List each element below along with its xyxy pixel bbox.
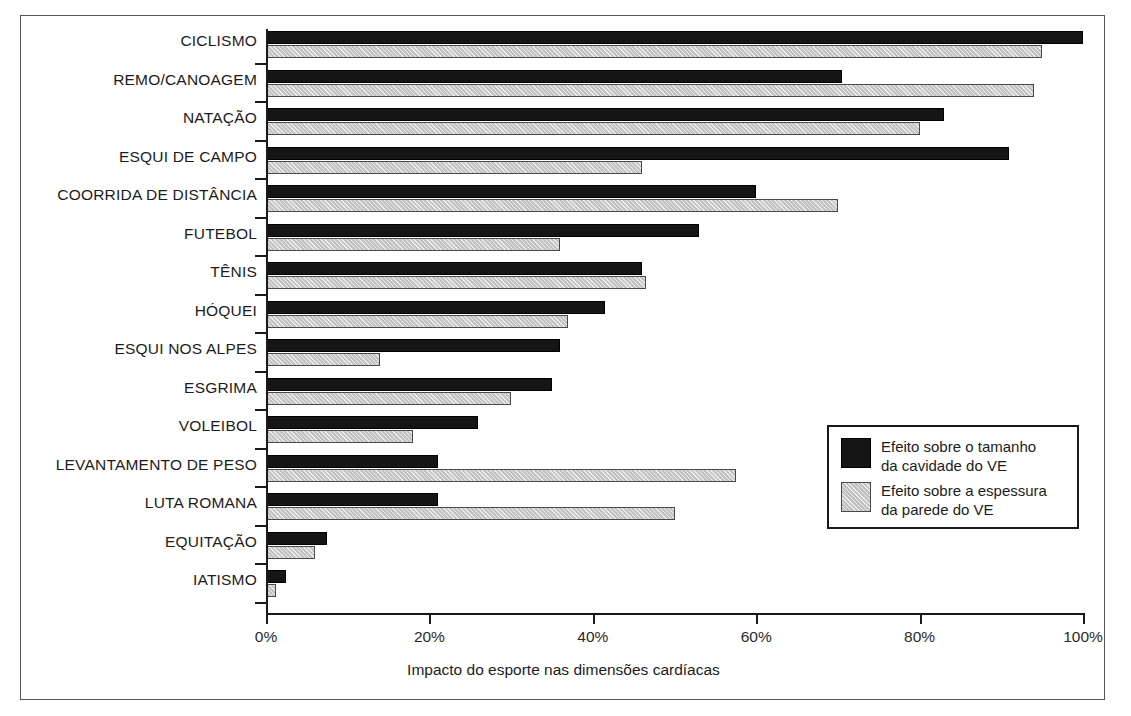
legend-label-wall: Efeito sobre a espessura da parede do VE	[881, 481, 1047, 519]
bar-group	[266, 568, 1083, 607]
bar-cavity	[266, 416, 478, 429]
bar-group	[266, 299, 1083, 338]
y-axis-tick	[255, 332, 266, 334]
x-axis-tick	[429, 613, 431, 624]
bar-cavity	[266, 455, 438, 468]
y-axis-tick	[255, 140, 266, 142]
bar-cavity	[266, 262, 642, 275]
bar-cavity	[266, 224, 699, 237]
bar-wall	[266, 546, 315, 559]
y-axis-tick	[255, 409, 266, 411]
x-axis-tick-label: 0%	[255, 628, 277, 646]
bar-group	[266, 260, 1083, 299]
bar-wall	[266, 276, 646, 289]
x-axis-tick	[756, 613, 758, 624]
bar-wall	[266, 315, 568, 328]
bar-group	[266, 106, 1083, 145]
category-label: EQUITAÇÃO	[165, 533, 257, 551]
bar-cavity	[266, 301, 605, 314]
bar-wall	[266, 353, 380, 366]
bar-group	[266, 183, 1083, 222]
category-label: ESGRIMA	[184, 379, 257, 397]
category-label: CICLISMO	[180, 32, 257, 50]
x-axis-line	[266, 613, 1085, 615]
bar-group	[266, 376, 1083, 415]
bar-group	[266, 29, 1083, 68]
bar-wall	[266, 161, 642, 174]
category-label: ESQUI DE CAMPO	[119, 148, 257, 166]
bar-wall	[266, 122, 920, 135]
bar-wall	[266, 45, 1042, 58]
y-axis-tick	[255, 255, 266, 257]
x-axis-tick-label: 80%	[904, 628, 935, 646]
bar-cavity	[266, 339, 560, 352]
category-label: IATISMO	[193, 571, 257, 589]
x-axis-tick-label: 40%	[577, 628, 608, 646]
y-axis-tick	[255, 217, 266, 219]
legend-swatch-dark	[841, 438, 871, 468]
bar-wall	[266, 238, 560, 251]
category-label: LEVANTAMENTO DE PESO	[56, 456, 257, 474]
bar-cavity	[266, 31, 1083, 44]
legend-item-cavity: Efeito sobre o tamanho da cavidade do VE	[841, 437, 1069, 475]
category-label: FUTEBOL	[184, 225, 257, 243]
bar-wall	[266, 469, 736, 482]
y-axis-line	[266, 29, 268, 614]
bar-cavity	[266, 147, 1009, 160]
bar-wall	[266, 430, 413, 443]
bar-wall	[266, 392, 511, 405]
y-axis-tick	[255, 178, 266, 180]
legend-label-cavity: Efeito sobre o tamanho da cavidade do VE	[881, 437, 1036, 475]
bar-group	[266, 337, 1083, 376]
chart-legend: Efeito sobre o tamanho da cavidade do VE…	[827, 425, 1079, 529]
bar-wall	[266, 507, 675, 520]
bar-cavity	[266, 185, 756, 198]
y-axis-tick	[255, 101, 266, 103]
bar-group	[266, 530, 1083, 569]
category-label: ESQUI NOS ALPES	[114, 340, 257, 358]
y-axis-tick	[255, 525, 266, 527]
x-axis-tick	[1083, 613, 1085, 624]
category-label: COORRIDA DE DISTÂNCIA	[57, 186, 257, 204]
bar-group	[266, 222, 1083, 261]
y-axis-tick	[255, 371, 266, 373]
bar-group	[266, 68, 1083, 107]
y-axis-tick	[255, 602, 266, 604]
legend-item-wall: Efeito sobre a espessura da parede do VE	[841, 481, 1069, 519]
bar-wall	[266, 199, 838, 212]
bar-cavity	[266, 532, 327, 545]
y-axis-tick	[255, 448, 266, 450]
x-axis-tick-label: 20%	[414, 628, 445, 646]
y-axis-tick	[255, 486, 266, 488]
legend-swatch-light	[841, 482, 871, 512]
x-axis-tick	[593, 613, 595, 624]
category-label: HÓQUEI	[195, 302, 257, 320]
bar-cavity	[266, 493, 438, 506]
y-axis-tick	[255, 563, 266, 565]
chart-figure: Impacto do esporte nas dimensões cardíac…	[20, 15, 1105, 700]
x-axis-tick	[920, 613, 922, 624]
category-label: LUTA ROMANA	[145, 494, 257, 512]
x-axis-tick-label: 60%	[741, 628, 772, 646]
category-label: REMO/CANOAGEM	[113, 71, 257, 89]
category-label: VOLEIBOL	[179, 417, 257, 435]
bar-cavity	[266, 378, 552, 391]
category-label: NATAÇÃO	[183, 109, 257, 127]
y-axis-tick	[255, 294, 266, 296]
y-axis-tick	[255, 63, 266, 65]
bar-cavity	[266, 570, 286, 583]
bar-group	[266, 145, 1083, 184]
x-axis-tick	[266, 613, 268, 624]
category-label: TÊNIS	[210, 263, 257, 281]
x-axis-title: Impacto do esporte nas dimensões cardíac…	[21, 661, 1106, 679]
bar-wall	[266, 84, 1034, 97]
x-axis-tick-label: 100%	[1063, 628, 1103, 646]
bar-cavity	[266, 108, 944, 121]
bar-cavity	[266, 70, 842, 83]
